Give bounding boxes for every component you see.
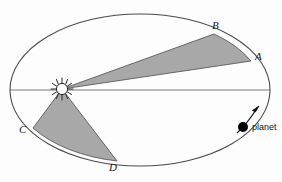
point-label-d: D: [109, 162, 117, 173]
diagram-canvas: [0, 0, 282, 182]
planet-label: planet: [252, 123, 277, 132]
kepler-equal-areas-figure: A B C D planet: [0, 0, 282, 182]
upper-shaded-sector: [62, 34, 251, 89]
planet-marker: [238, 122, 248, 132]
sun-icon: [56, 83, 67, 94]
lower-shaded-sector: [33, 89, 117, 161]
point-label-a: A: [255, 51, 262, 62]
point-label-b: B: [212, 20, 219, 31]
point-label-c: C: [19, 124, 26, 135]
